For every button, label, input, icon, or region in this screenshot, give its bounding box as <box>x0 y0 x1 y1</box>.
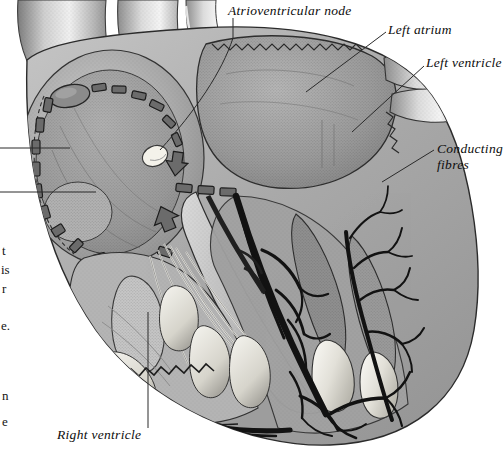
label-conducting-fibres-line1: Conducting <box>437 141 503 156</box>
page-text-fragment-1: t <box>2 243 6 259</box>
figure-canvas: Atrioventricular node Left atrium Left v… <box>0 0 503 453</box>
label-atrioventricular-node: Atrioventricular node <box>228 3 352 19</box>
page-text-fragment-2: is <box>1 262 10 278</box>
page-text-fragment-5: n <box>2 388 9 404</box>
label-left-atrium: Left atrium <box>388 22 452 38</box>
label-conducting-fibres: Conducting fibres <box>437 141 503 172</box>
label-conducting-fibres-line2: fibres <box>437 157 469 172</box>
page-text-fragment-4: e. <box>1 318 10 334</box>
label-left-ventricle: Left ventricle <box>426 55 502 71</box>
label-right-ventricle: Right ventricle <box>57 427 141 443</box>
page-text-fragment-6: e <box>2 414 8 430</box>
page-text-fragment-3: r <box>2 281 6 297</box>
